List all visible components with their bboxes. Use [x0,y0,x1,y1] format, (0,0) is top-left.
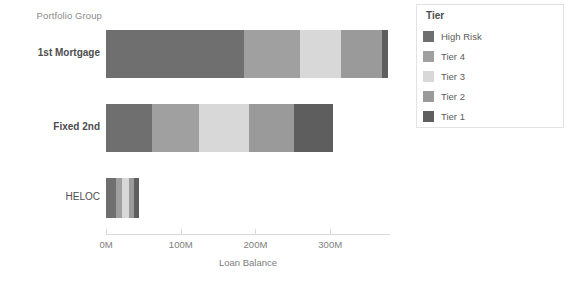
bar-segment[interactable] [199,104,250,152]
bar-segment[interactable] [106,30,244,78]
bar-segment[interactable] [122,178,129,218]
bar-segment[interactable] [244,30,300,78]
stacked-bar[interactable] [106,178,139,218]
plot-area [106,22,390,228]
legend-item[interactable]: Tier 2 [420,86,561,106]
x-axis-tick [181,229,182,234]
y-axis-label: 1st Mortgage [4,47,100,58]
legend-item-label: Tier 1 [441,111,465,122]
bar-segment[interactable] [294,104,333,152]
y-axis-label: Fixed 2nd [4,121,100,132]
x-axis-title: Loan Balance [106,257,390,268]
x-axis-tick [106,229,107,234]
x-axis-tick [255,229,256,234]
legend-item-list: High RiskTier 4Tier 3Tier 2Tier 1 [420,26,561,126]
bar-segment[interactable] [134,178,139,218]
legend-item-label: Tier 3 [441,71,465,82]
x-axis-tick [330,229,331,234]
bar-segment[interactable] [341,30,382,78]
bar-segment[interactable] [249,104,294,152]
x-axis-tick-label: 200M [244,239,268,250]
legend-item[interactable]: High Risk [420,26,561,46]
x-axis-tick-label: 100M [169,239,193,250]
bar-segment[interactable] [382,30,388,78]
x-axis-tick-label: 0M [99,239,112,250]
bar-segment[interactable] [300,30,341,78]
legend-swatch-icon [423,51,434,62]
legend-item[interactable]: Tier 4 [420,46,561,66]
legend-swatch-icon [423,71,434,82]
bar-segment[interactable] [152,104,198,152]
legend-item[interactable]: Tier 1 [420,106,561,126]
stacked-bar[interactable] [106,104,333,152]
y-axis-title: Portfolio Group [18,10,102,21]
bar-segment[interactable] [106,104,152,152]
stacked-bar[interactable] [106,30,388,78]
legend-item[interactable]: Tier 3 [420,66,561,86]
legend-swatch-icon [423,31,434,42]
bar-segment[interactable] [106,178,116,218]
x-axis-line [106,234,390,235]
legend-item-label: Tier 4 [441,51,465,62]
legend-swatch-icon [423,111,434,122]
legend-item-label: High Risk [441,31,482,42]
legend-item-label: Tier 2 [441,91,465,102]
legend-swatch-icon [423,91,434,102]
y-axis-label: HELOC [4,191,100,202]
x-axis-tick-label: 300M [318,239,342,250]
legend-title: Tier [426,10,444,21]
chart-container: Portfolio Group 1st MortgageFixed 2ndHEL… [0,0,580,284]
legend: Tier High RiskTier 4Tier 3Tier 2Tier 1 [416,4,564,128]
